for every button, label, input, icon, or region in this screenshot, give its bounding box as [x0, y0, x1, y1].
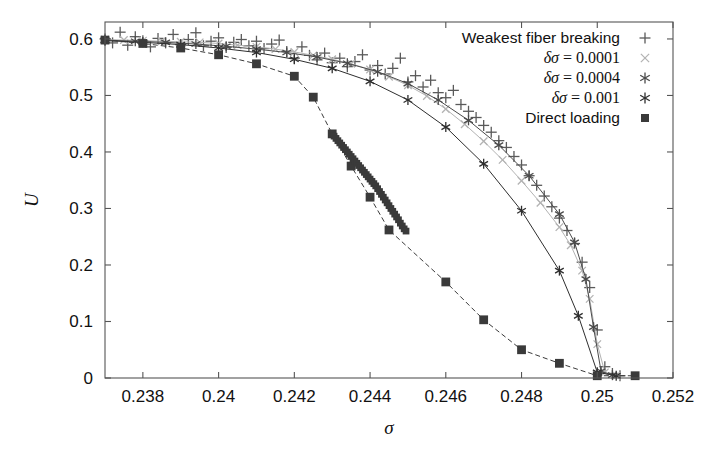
data-point-filled-square	[631, 371, 640, 380]
series-4	[101, 36, 640, 380]
data-point-asterisk	[582, 274, 591, 284]
data-point-plus	[410, 70, 421, 81]
data-point-plus	[357, 49, 368, 60]
data-point-filled-square	[290, 72, 299, 81]
data-point-asterisk	[555, 266, 564, 276]
data-point-filled-square	[441, 278, 450, 287]
legend-label-0: Weakest fiber breaking	[462, 29, 620, 46]
data-point-plus	[387, 63, 398, 74]
x-tick-label: 0.238	[122, 387, 165, 406]
data-point-plus	[296, 41, 307, 52]
data-point-filled-square	[555, 359, 564, 368]
figure-container: 0.2380.240.2420.2440.2460.2480.250.25200…	[0, 0, 727, 455]
data-point-filled-square	[309, 93, 318, 102]
data-point-plus	[546, 201, 557, 212]
x-tick-label: 0.248	[500, 387, 543, 406]
x-tick-label: 0.24	[202, 387, 235, 406]
data-point-plus	[395, 53, 406, 64]
y-tick-label: 0	[84, 369, 93, 388]
series-line	[105, 40, 616, 376]
data-point-filled-square	[176, 44, 185, 53]
data-point-plus	[236, 34, 247, 45]
data-point-plus	[516, 159, 527, 170]
series-3	[101, 36, 621, 381]
data-point-filled-square	[403, 228, 410, 235]
y-tick-label: 0.4	[69, 143, 93, 162]
legend-label-2: δσ = 0.0004	[544, 69, 620, 86]
y-tick-label: 0.3	[69, 199, 93, 218]
y-tick-label: 0.1	[69, 312, 93, 331]
series-2	[101, 35, 617, 380]
x-tick-label: 0.25	[581, 387, 614, 406]
y-tick-label: 0.6	[69, 30, 93, 49]
x-tick-label: 0.242	[273, 387, 316, 406]
y-tick-label: 0.2	[69, 256, 93, 275]
data-point-asterisk	[434, 95, 443, 105]
data-point-plus	[463, 106, 474, 117]
data-point-asterisk	[640, 73, 650, 84]
x-tick-label: 0.252	[652, 387, 695, 406]
x-axis-title: σ	[384, 417, 394, 438]
data-point-filled-square	[252, 59, 261, 68]
data-point-plus	[448, 85, 459, 96]
y-axis-title: U	[21, 192, 42, 207]
series-1	[101, 36, 620, 380]
data-point-filled-square	[366, 193, 375, 202]
data-point-filled-square	[641, 114, 649, 122]
chart-legend: Weakest fiber breakingδσ = 0.0001δσ = 0.…	[462, 29, 651, 126]
legend-label-3: δσ = 0.001	[552, 89, 620, 106]
data-point-plus	[115, 27, 126, 38]
series-line	[105, 41, 616, 376]
data-point-cross	[499, 156, 507, 164]
x-tick-label: 0.246	[425, 387, 468, 406]
data-point-cross	[480, 137, 488, 145]
data-point-filled-square	[517, 345, 526, 354]
data-point-cross	[641, 54, 649, 62]
x-tick-label: 0.244	[349, 387, 392, 406]
data-point-filled-square	[479, 315, 488, 324]
series-line	[105, 40, 612, 375]
data-point-asterisk	[328, 63, 337, 73]
data-point-plus	[425, 75, 436, 86]
data-point-filled-square	[385, 226, 394, 235]
data-point-plus	[455, 99, 466, 110]
data-point-asterisk	[640, 93, 650, 104]
data-point-asterisk	[589, 322, 598, 332]
data-point-filled-square	[214, 50, 223, 59]
data-point-asterisk	[366, 76, 375, 86]
data-point-plus	[418, 81, 429, 92]
data-point-asterisk	[404, 95, 413, 105]
legend-label-4: Direct loading	[525, 109, 620, 126]
legend-label-1: δσ = 0.0001	[544, 49, 620, 66]
chart-canvas: 0.2380.240.2420.2440.2460.2480.250.25200…	[0, 0, 727, 455]
data-point-cross	[556, 223, 564, 231]
data-point-plus	[640, 33, 651, 44]
data-point-cross	[537, 199, 545, 207]
data-point-asterisk	[574, 311, 583, 321]
data-point-plus	[190, 27, 201, 38]
data-point-filled-square	[138, 39, 147, 48]
y-tick-label: 0.5	[69, 86, 93, 105]
data-point-cross	[518, 177, 526, 185]
